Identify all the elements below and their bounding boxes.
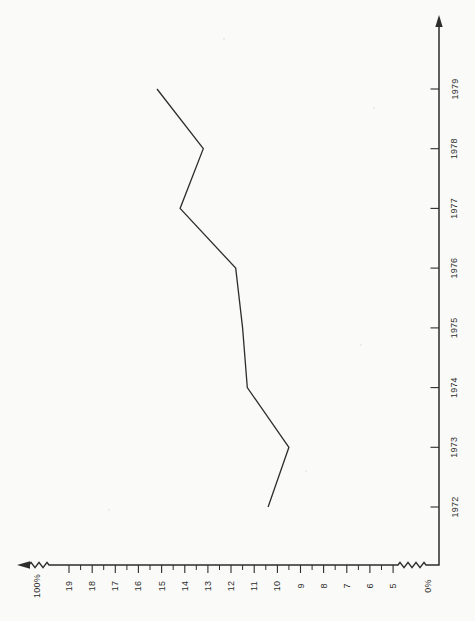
year-axis-tick-label: 1977	[450, 198, 460, 219]
axes-line	[29, 26, 439, 568]
value-axis-tick-label: 5	[388, 583, 398, 588]
scan-speckle	[223, 38, 225, 40]
year-axis-tick-label: 1974	[450, 377, 460, 398]
value-axis-tick-label: 10	[272, 581, 282, 591]
scan-speckle	[108, 509, 110, 511]
scan-speckle	[373, 107, 375, 109]
value-axis-tick-label: 17	[110, 581, 120, 591]
scanned-line-chart-figure: 1918171615141312111098765100%0%197219731…	[0, 0, 475, 621]
year-axis-tick-label: 1973	[450, 437, 460, 458]
value-axis-tick-label: 16	[133, 581, 143, 591]
value-axis-tick-label: 11	[249, 581, 259, 591]
year-axis-tick-label: 1979	[450, 79, 460, 100]
value-axis-tick-label: 8	[319, 583, 329, 588]
scan-speckle	[305, 470, 307, 472]
value-axis-zero-label: 0%	[423, 579, 433, 592]
year-axis-arrow-icon	[435, 15, 442, 27]
data-line	[157, 89, 289, 507]
value-axis-tick-label: 13	[203, 581, 213, 591]
chart-canvas: 1918171615141312111098765100%0%197219731…	[0, 0, 475, 621]
year-axis-tick-label: 1975	[450, 317, 460, 338]
value-axis-tick-label: 19	[64, 581, 74, 591]
scan-speckle	[360, 344, 362, 346]
value-axis-tick-label: 7	[342, 583, 352, 588]
value-axis-tick-label: 6	[365, 583, 375, 588]
value-axis-tick-label: 12	[226, 581, 236, 591]
year-axis-tick-label: 1978	[450, 138, 460, 159]
value-axis-arrow-icon	[17, 561, 30, 568]
year-axis-tick-label: 1976	[450, 258, 460, 279]
value-axis-tick-label: 18	[87, 581, 97, 591]
year-axis-tick-label: 1972	[450, 497, 460, 518]
value-axis-tick-label: 9	[296, 583, 306, 588]
value-axis-tick-label: 15	[157, 581, 167, 591]
value-axis-tick-label: 14	[180, 581, 190, 591]
value-axis-hundred-label: 100%	[32, 574, 42, 598]
